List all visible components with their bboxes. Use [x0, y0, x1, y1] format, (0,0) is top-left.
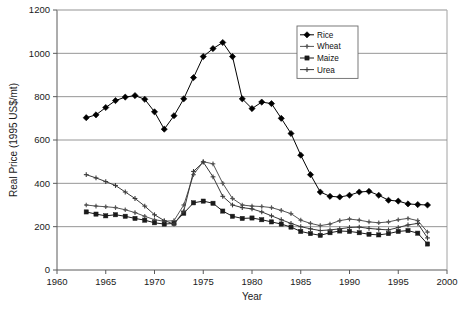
data-point	[240, 216, 244, 220]
x-tick-label: 1965	[95, 276, 116, 287]
x-tick-label: 1985	[290, 276, 311, 287]
data-point	[376, 192, 382, 198]
data-point	[123, 214, 127, 218]
data-point	[250, 207, 255, 212]
data-point	[317, 189, 323, 195]
data-point	[337, 218, 342, 223]
x-tick-label: 1975	[193, 276, 214, 287]
data-point	[424, 202, 430, 208]
data-point	[357, 231, 361, 235]
data-point	[104, 214, 108, 218]
y-axis-tick-labels: 020040060080010001200	[29, 4, 50, 275]
series-line	[86, 162, 427, 232]
data-point	[94, 176, 99, 181]
data-point	[152, 221, 156, 225]
data-series-layer	[83, 39, 430, 246]
x-tick-label: 1995	[388, 276, 409, 287]
data-point	[112, 97, 118, 103]
data-point	[190, 75, 196, 81]
data-point	[347, 229, 351, 233]
chart-container: 020040060080010001200 196019651970197519…	[0, 0, 470, 312]
data-point	[268, 101, 274, 107]
series-urea	[84, 160, 430, 241]
data-point	[191, 201, 195, 205]
data-point	[113, 213, 117, 217]
data-point	[259, 210, 264, 215]
data-point	[318, 223, 323, 228]
data-point	[299, 229, 303, 233]
data-point	[211, 201, 215, 205]
data-point	[123, 207, 128, 212]
y-tick-label: 800	[34, 91, 50, 102]
y-axis-title: Real Price (1995 US$/mt)	[8, 83, 19, 197]
data-point	[229, 53, 235, 59]
y-tick-label: 1000	[29, 48, 50, 59]
data-point	[327, 193, 333, 199]
data-point	[83, 115, 89, 121]
data-point	[133, 210, 138, 215]
data-point	[269, 205, 274, 210]
data-point	[308, 232, 312, 236]
data-point	[250, 216, 254, 220]
y-tick-label: 1200	[29, 4, 50, 15]
legend-item-label: Rice	[317, 31, 334, 40]
data-point	[259, 204, 264, 209]
data-point	[201, 199, 205, 203]
data-point	[122, 94, 128, 100]
y-tick-label: 200	[34, 221, 50, 232]
data-point	[132, 92, 138, 98]
data-point	[415, 201, 421, 207]
data-point	[260, 218, 264, 222]
data-point	[84, 203, 89, 208]
data-point	[133, 216, 137, 220]
data-point	[376, 220, 381, 225]
data-point	[103, 204, 108, 209]
data-point	[318, 233, 322, 237]
chart-legend: RiceWheatMaizeUrea	[297, 26, 358, 78]
data-point	[113, 205, 118, 210]
data-point	[395, 198, 401, 204]
data-point	[357, 218, 362, 223]
data-point	[279, 222, 283, 226]
x-tick-label: 1960	[46, 276, 67, 287]
x-tick-label: 1980	[241, 276, 262, 287]
data-point	[406, 228, 410, 232]
data-point	[143, 218, 147, 222]
legend-item-label: Urea	[317, 66, 335, 75]
data-point	[386, 220, 391, 225]
data-point	[84, 172, 89, 177]
data-point	[396, 229, 400, 233]
data-point	[230, 214, 234, 218]
data-point	[298, 224, 303, 229]
data-point	[279, 217, 284, 222]
data-point	[288, 130, 294, 136]
legend-item-label: Maize	[317, 54, 339, 63]
y-tick-label: 600	[34, 134, 50, 145]
data-point	[385, 197, 391, 203]
y-axis-ticks	[53, 10, 57, 270]
data-point	[405, 201, 411, 207]
data-point	[308, 221, 313, 226]
data-point	[269, 220, 273, 224]
data-point	[307, 172, 313, 178]
data-point	[376, 227, 381, 232]
y-tick-label: 0	[45, 264, 50, 275]
data-point	[221, 209, 225, 213]
data-point	[406, 216, 411, 221]
x-axis-title: Year	[242, 291, 263, 302]
data-point	[240, 205, 245, 210]
data-point	[308, 226, 313, 231]
data-point	[220, 39, 226, 45]
data-point	[94, 212, 98, 216]
data-point	[396, 217, 401, 222]
data-point	[298, 152, 304, 158]
data-point	[425, 242, 429, 246]
data-point	[337, 194, 343, 200]
series-rice	[83, 39, 430, 208]
price-line-chart: 020040060080010001200 196019651970197519…	[0, 0, 470, 312]
data-point	[279, 208, 284, 213]
x-tick-label: 2000	[436, 276, 457, 287]
data-point	[377, 233, 381, 237]
data-point	[278, 115, 284, 121]
y-tick-label: 400	[34, 178, 50, 189]
